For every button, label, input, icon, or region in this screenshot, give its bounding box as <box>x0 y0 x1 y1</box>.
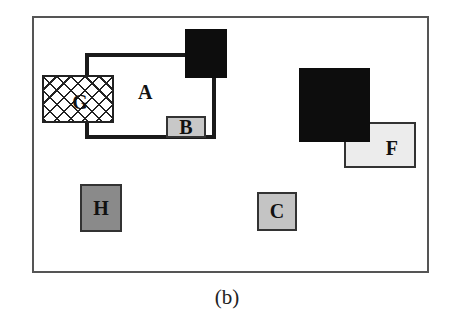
region-g-box: G <box>42 75 114 123</box>
region-g-label: G <box>72 91 88 114</box>
region-f-label: F <box>386 137 398 160</box>
black-square-top <box>185 29 227 78</box>
region-c-box: C <box>257 192 297 231</box>
region-c-label: C <box>270 200 284 223</box>
region-h-label: H <box>93 197 109 220</box>
region-b-label: B <box>179 116 192 139</box>
figure-caption: (b) <box>0 285 454 310</box>
region-b-box: B <box>166 116 206 138</box>
black-square-large <box>299 68 370 142</box>
region-h-box: H <box>80 184 122 232</box>
region-a-label: A <box>138 82 152 102</box>
